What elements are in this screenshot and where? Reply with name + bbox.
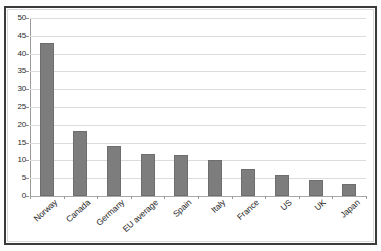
y-axis-tick-mark: [26, 89, 29, 90]
y-axis-tick-mark: [26, 36, 29, 37]
x-axis-tick-label: Italy: [210, 198, 227, 215]
y-axis-tick-mark: [26, 178, 29, 179]
y-axis-tick-label: 20: [2, 121, 26, 129]
bar-uk[interactable]: [309, 180, 323, 196]
x-axis-tick-mark: [366, 196, 367, 199]
bar-eu-average[interactable]: [141, 154, 155, 196]
x-axis-tick-label: Spain: [171, 198, 193, 219]
bar-slot: [198, 18, 232, 196]
bar-germany[interactable]: [107, 146, 121, 196]
bar-slot: [332, 18, 366, 196]
bar-us[interactable]: [275, 175, 289, 196]
x-axis-tick-label: US: [279, 198, 294, 212]
y-axis-tick-label: 30: [2, 85, 26, 93]
y-axis-tick-labels: 50454035302520151050: [0, 18, 26, 196]
y-axis-tick-mark: [26, 54, 29, 55]
bar-japan[interactable]: [342, 184, 356, 196]
bar-france[interactable]: [241, 169, 255, 196]
x-axis-tick-label: Canada: [65, 198, 93, 224]
y-axis-tick-label: 0: [2, 192, 26, 200]
bar-slot: [164, 18, 198, 196]
x-axis-tick-label: EU average: [121, 198, 160, 234]
bar-norway[interactable]: [40, 43, 54, 196]
y-axis-tick-mark: [26, 18, 29, 19]
plot-area: [30, 18, 366, 196]
cropped-title-remnant: [0, 0, 381, 5]
bar-slot: [131, 18, 165, 196]
x-axis-tick-label: Norway: [32, 198, 59, 224]
y-axis-tick-mark: [26, 196, 29, 197]
y-axis-tick-label: 45: [2, 32, 26, 40]
y-axis-tick-label: 5: [2, 174, 26, 182]
bar-chart-figure: 50454035302520151050 NorwayCanadaGermany…: [0, 0, 381, 251]
bar-slot: [299, 18, 333, 196]
y-axis-tick-mark: [26, 143, 29, 144]
y-axis-tick-label: 25: [2, 103, 26, 111]
x-axis-tick-label: UK: [313, 198, 328, 212]
y-axis-tick-mark: [26, 160, 29, 161]
y-axis-tick-label: 50: [2, 14, 26, 22]
bar-italy[interactable]: [208, 160, 222, 196]
y-axis-tick-mark: [26, 71, 29, 72]
bar-slot: [232, 18, 266, 196]
y-axis-tick-mark: [26, 125, 29, 126]
bar-slot: [97, 18, 131, 196]
bar-spain[interactable]: [174, 155, 188, 196]
bar-slot: [265, 18, 299, 196]
y-axis-tick-label: 40: [2, 50, 26, 58]
bar-slot: [64, 18, 98, 196]
bar-canada[interactable]: [73, 131, 87, 196]
y-axis-tick-mark: [26, 107, 29, 108]
x-axis-tick-labels: NorwayCanadaGermanyEU averageSpainItalyF…: [30, 198, 366, 244]
y-axis-tick-label: 35: [2, 67, 26, 75]
bar-slot: [30, 18, 64, 196]
x-axis-tick-label: Germany: [95, 198, 126, 228]
y-axis-tick-label: 15: [2, 139, 26, 147]
y-axis-tick-label: 10: [2, 156, 26, 164]
x-axis-tick-label: France: [235, 198, 260, 222]
x-axis-tick-label: Japan: [338, 198, 361, 220]
